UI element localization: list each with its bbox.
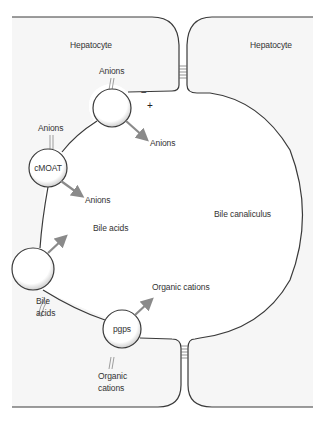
left-hepatocyte-label: Hepatocyte bbox=[70, 40, 112, 50]
diagram-canvas: Hepatocyte Hepatocyte Bile canaliculus −… bbox=[0, 0, 325, 424]
anion-transporter-input-label: Anions bbox=[99, 66, 124, 76]
anion-transporter-circle bbox=[93, 89, 131, 127]
bile-acid-transporter-circle bbox=[12, 248, 54, 290]
cmoat-name-label: cMOAT bbox=[34, 163, 62, 173]
tight-junction-top bbox=[179, 66, 187, 78]
membrane-negative-sign: − bbox=[141, 88, 147, 98]
pgps-output-label: Organic cations bbox=[152, 282, 210, 292]
anion-transporter-output-label: Anions bbox=[150, 138, 175, 148]
tight-junction-bottom bbox=[181, 346, 188, 358]
pgps-input-label-line2: cations bbox=[98, 383, 124, 393]
bile-canaliculus-label: Bile canaliculus bbox=[214, 209, 271, 219]
membrane-positive-sign: + bbox=[147, 101, 153, 111]
right-hepatocyte-label: Hepatocyte bbox=[250, 40, 292, 50]
cmoat-output-label: Anions bbox=[85, 195, 110, 205]
pgps-name-label: pgps bbox=[113, 324, 131, 334]
bile-acid-input-label-line2: acids bbox=[36, 308, 55, 318]
diagram-svg bbox=[0, 0, 325, 424]
bile-acid-input-label-line1: Bile bbox=[36, 296, 50, 306]
pgps-input-label-line1: Organic bbox=[98, 371, 127, 381]
cmoat-input-label: Anions bbox=[38, 123, 63, 133]
bile-acid-output-label: Bile acids bbox=[93, 223, 128, 233]
